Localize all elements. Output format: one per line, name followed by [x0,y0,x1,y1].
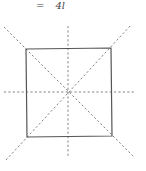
diagonal-bl-tr-line [6,25,131,160]
square-symmetry-diagram [0,0,146,171]
symmetry-lines [4,25,134,160]
